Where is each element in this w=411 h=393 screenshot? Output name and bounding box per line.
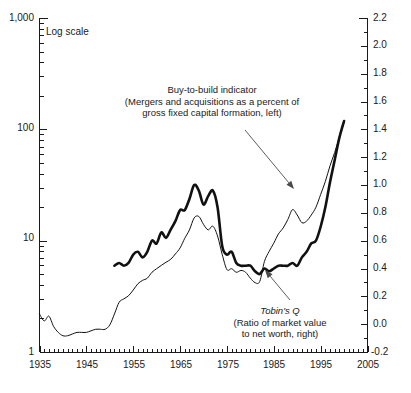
x-tick-label-1955: 1955	[110, 360, 158, 370]
annotation-buy-to-build-line1: Buy-to-build indicator	[62, 84, 362, 96]
x-tick-label-1975: 1975	[204, 360, 252, 370]
right-axis-ticks	[361, 19, 368, 353]
right-tick-label-0-8: 0.8	[373, 207, 387, 217]
left-axis-ticks	[40, 19, 47, 353]
annotation-tobins-q-line2: (Ratio of market value	[180, 317, 380, 329]
caption-clipped	[6, 383, 176, 389]
right-tick-label-2-0: 2.0	[373, 40, 387, 50]
annotation-arrow-line-tobins-q	[270, 276, 290, 300]
right-tick-label-neg-0-2: -0.2	[371, 347, 388, 357]
annotation-tobins-q-line1: Tobin's Q	[180, 305, 380, 317]
x-tick-label-1965: 1965	[157, 360, 205, 370]
right-tick-label-0-6: 0.6	[373, 235, 387, 245]
series-line-tobins-q	[114, 121, 344, 274]
x-tick-label-1945: 1945	[63, 360, 111, 370]
right-tick-label-0-4: 0.4	[373, 263, 387, 273]
x-tick-label-1995: 1995	[297, 360, 345, 370]
x-tick-label-1985: 1985	[250, 360, 298, 370]
annotation-tobins-q: Tobin's Q (Ratio of market value to net …	[180, 305, 380, 340]
left-tick-label-10: 10	[0, 233, 34, 243]
right-tick-label-1-0: 1.0	[373, 179, 387, 189]
right-tick-label-1-8: 1.8	[373, 68, 387, 78]
right-tick-label-1-4: 1.4	[373, 124, 387, 134]
data-series-layer	[40, 121, 345, 336]
left-tick-label-100: 100	[0, 123, 34, 133]
axis-lines	[40, 18, 368, 353]
annotation-tobins-q-line3: to net worth, right)	[180, 328, 380, 340]
annotation-arrow-line-buy-to-build	[245, 130, 289, 183]
left-tick-label-1: 1	[0, 347, 34, 357]
annotation-buy-to-build: Buy-to-build indicator (Mergers and acqu…	[62, 84, 362, 119]
x-tick-label-2005: 2005	[344, 360, 392, 370]
x-axis-ticks	[41, 346, 369, 352]
annotation-buy-to-build-line2: (Mergers and acquisitions as a percent o…	[62, 96, 362, 108]
log-scale-note: Log scale	[46, 26, 89, 37]
right-tick-label-1-2: 1.2	[373, 152, 387, 162]
chart-figure: Log scale 1,000 100 10 1 2.2 2.0 1.8 1.6…	[0, 0, 411, 393]
right-tick-label-2-2: 2.2	[373, 13, 387, 23]
x-tick-label-1935: 1935	[16, 360, 64, 370]
right-tick-label-1-6: 1.6	[373, 96, 387, 106]
annotation-arrows	[245, 130, 294, 300]
annotation-arrow-head-buy-to-build	[287, 181, 295, 189]
annotation-buy-to-build-line3: gross fixed capital formation, left)	[62, 107, 362, 119]
right-tick-label-0-2: 0.2	[373, 291, 387, 301]
left-tick-label-1000: 1,000	[0, 13, 34, 23]
